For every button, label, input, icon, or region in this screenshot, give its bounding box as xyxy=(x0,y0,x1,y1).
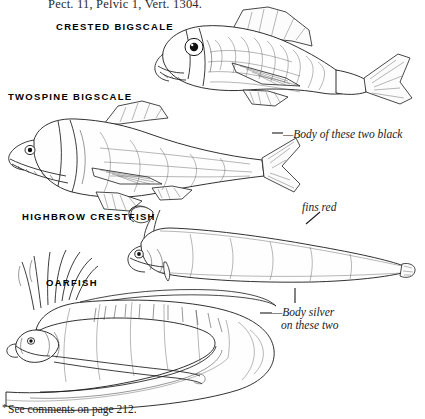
fish-highbrow-crestfish xyxy=(128,206,415,282)
fish-illustrations xyxy=(0,0,425,419)
annotation-body-black: —Body of these two black xyxy=(283,128,402,141)
fish-twospine-bigscale xyxy=(9,101,300,211)
footnote-text: See comments on page 212. xyxy=(8,403,137,415)
annotation-fins-red: fins red xyxy=(302,201,336,214)
fish-crested-bigscale xyxy=(155,7,412,106)
field-guide-plate: Pect. 11, Pelvic 1, Vert. 1304. xyxy=(0,0,425,419)
page-footnote: *See comments on page 212. xyxy=(2,402,137,415)
species-label-twospine-bigscale: TWOSPINE BIGSCALE xyxy=(8,91,133,102)
species-label-oarfish: OARFISH xyxy=(46,277,98,288)
annotation-body-silver-line1: —Body silver xyxy=(272,306,334,318)
annotation-body-silver: —Body silver on these two xyxy=(272,306,339,332)
species-label-crested-bigscale: CRESTED BIGSCALE xyxy=(56,21,174,32)
annotation-body-silver-line2: on these two xyxy=(272,319,339,332)
species-label-highbrow-crestfish: HIGHBROW CRESTFISH xyxy=(22,211,156,222)
footnote-marker: * xyxy=(2,402,7,413)
